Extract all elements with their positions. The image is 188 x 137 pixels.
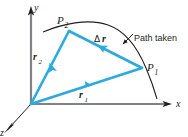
y-axis-label: y: [33, 2, 39, 13]
vector-r1-letter: r: [79, 89, 83, 100]
point-p1-subscript: 1: [155, 68, 159, 77]
vector-r2-subscript: 2: [39, 58, 43, 66]
delta-symbol: Δ: [94, 34, 101, 44]
z-axis-label: z: [0, 127, 4, 137]
vector-r2-letter: r: [33, 51, 37, 62]
vector-delta-r-label: Δ r: [94, 33, 106, 44]
path-taken-label: Path taken: [134, 33, 177, 43]
vector-r2-label: r 2: [33, 51, 43, 66]
x-axis-label: x: [175, 98, 181, 109]
point-p2-letter: P: [56, 14, 64, 26]
vector-r1-midarrow: [82, 81, 92, 89]
point-p1-label: P 1: [146, 61, 158, 77]
vector-r1-subscript: 1: [85, 96, 89, 104]
physics-figure: y x z P 2 P 1 r 2 r 1: [0, 0, 188, 137]
vector-delta-r-letter: r: [102, 33, 106, 44]
vector-r1-label: r 1: [79, 89, 88, 104]
point-p2-subscript: 2: [65, 21, 69, 30]
figure-canvas: y x z P 2 P 1 r 2 r 1: [0, 0, 188, 137]
z-axis: [10, 104, 31, 127]
point-p1-letter: P: [146, 61, 154, 73]
